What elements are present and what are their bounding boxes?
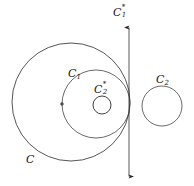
- label-small-circle: C*2: [94, 80, 107, 96]
- label-middle-circle-base: C: [68, 67, 76, 80]
- label-outer-circle: C: [26, 150, 34, 166]
- small-circle-C2-star: [93, 96, 111, 114]
- right-circle-C2: [142, 86, 182, 126]
- label-middle-circle-subscript: 1: [77, 73, 81, 81]
- label-vertical-line: C*1: [113, 3, 126, 19]
- label-vertical-line-subscript: 1: [122, 13, 126, 19]
- label-middle-circle: C1: [68, 64, 81, 81]
- label-right-circle-subscript: 2: [165, 79, 169, 87]
- label-small-circle-scripts: *2: [103, 83, 107, 94]
- label-small-circle-base: C: [94, 83, 102, 96]
- center-point-marker: [61, 103, 64, 106]
- outer-circle-C: [12, 43, 130, 161]
- label-small-circle-subscript: 2: [103, 90, 107, 96]
- label-vertical-line-scripts: *1: [122, 6, 126, 17]
- diagram-canvas: C C1 C*2 C2 C*1: [0, 0, 194, 186]
- label-vertical-line-base: C: [113, 6, 121, 19]
- label-outer-circle-base: C: [26, 153, 34, 166]
- label-right-circle-base: C: [156, 73, 164, 86]
- label-right-circle: C2: [156, 70, 169, 87]
